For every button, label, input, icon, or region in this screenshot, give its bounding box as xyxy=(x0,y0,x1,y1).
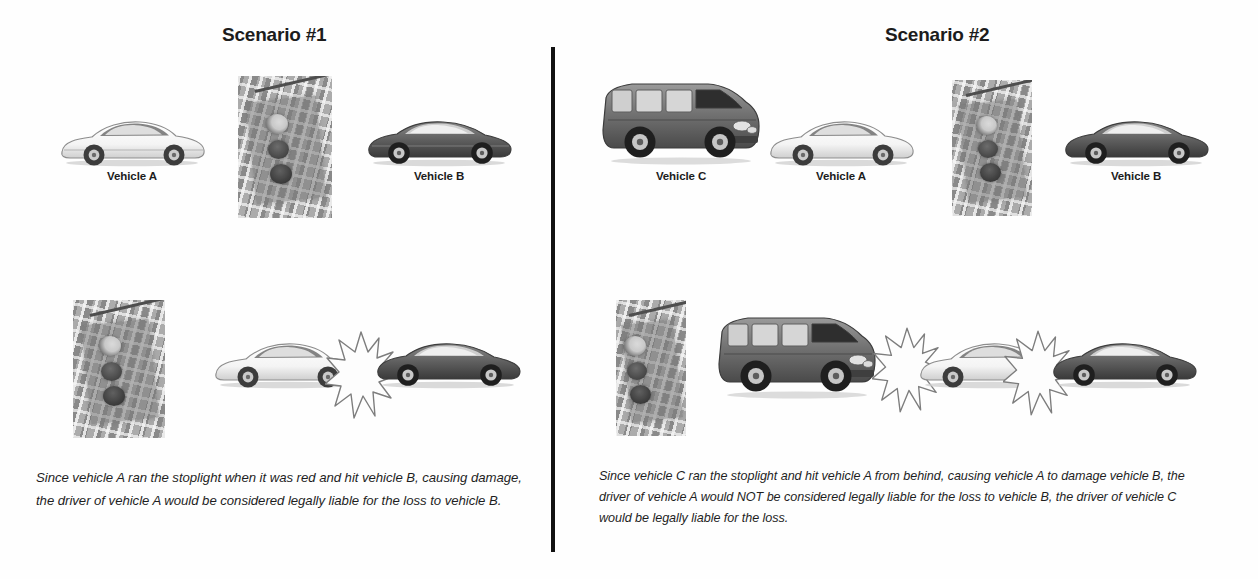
amber-lamp-icon xyxy=(101,362,122,381)
scenario-1-title: Scenario #1 xyxy=(222,24,326,46)
red-lamp-icon xyxy=(99,336,121,356)
green-lamp-icon xyxy=(270,164,292,184)
vehicle-label: Vehicle B xyxy=(1060,170,1212,182)
green-lamp-icon xyxy=(980,163,1001,182)
dark-suv-icon xyxy=(712,302,882,402)
scenario-2-title: Scenario #2 xyxy=(885,24,989,46)
s2-after-vehicle-c xyxy=(712,302,882,402)
s1-before-vehicle-b: Vehicle B xyxy=(363,112,515,182)
vehicle-label: Vehicle A xyxy=(765,170,917,182)
dark-sports-coupe-icon xyxy=(363,112,515,168)
dark-sports-coupe-icon xyxy=(1060,112,1212,168)
amber-lamp-icon xyxy=(268,140,289,159)
scenario-1-caption: Since vehicle A ran the stoplight when i… xyxy=(36,466,541,512)
scenario-divider xyxy=(551,47,555,552)
amber-lamp-icon xyxy=(627,362,647,380)
dark-sports-coupe-icon xyxy=(1048,334,1200,390)
red-lamp-icon xyxy=(624,336,646,356)
green-lamp-icon xyxy=(630,385,651,404)
amber-lamp-icon xyxy=(978,140,998,158)
s2-after-vehicle-b xyxy=(1048,334,1200,390)
red-lamp-icon xyxy=(976,116,997,135)
s2-before-stoplight xyxy=(952,80,1032,216)
s2-after-stoplight xyxy=(616,300,686,436)
scenario-2-caption: Since vehicle C ran the stoplight and hi… xyxy=(599,466,1209,529)
diagram-page: Scenario #1 Scenario #2 Vehicle A xyxy=(0,0,1258,579)
dark-suv-icon xyxy=(596,68,766,168)
s1-after-stoplight xyxy=(73,300,165,438)
s2-before-vehicle-b: Vehicle B xyxy=(1060,112,1212,182)
dark-sports-coupe-icon xyxy=(372,334,524,390)
s2-before-vehicle-a: Vehicle A xyxy=(765,112,917,182)
s1-before-stoplight xyxy=(238,76,332,218)
green-lamp-icon xyxy=(103,386,125,406)
s2-before-vehicle-c: Vehicle C xyxy=(596,68,766,182)
white-coupe-icon xyxy=(56,112,208,168)
vehicle-label: Vehicle C xyxy=(596,170,766,182)
white-coupe-icon xyxy=(765,112,917,168)
caption-text: Since vehicle A ran the stoplight when i… xyxy=(36,466,541,512)
red-lamp-icon xyxy=(266,114,288,134)
s1-after-vehicle-b xyxy=(372,334,524,390)
vehicle-label: Vehicle A xyxy=(56,170,208,182)
vehicle-label: Vehicle B xyxy=(363,170,515,182)
s1-before-vehicle-a: Vehicle A xyxy=(56,112,208,182)
caption-text: Since vehicle C ran the stoplight and hi… xyxy=(599,466,1209,529)
